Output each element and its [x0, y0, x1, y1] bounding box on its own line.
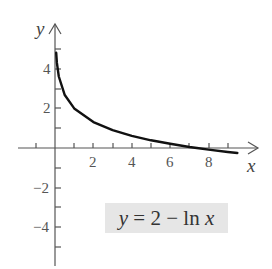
equation-rhs: = 2 − ln — [128, 206, 205, 231]
x-tick-label-8: 8 — [205, 154, 213, 170]
x-axis-label: x — [246, 155, 256, 176]
x-tick-label-6: 6 — [166, 154, 174, 170]
x-tick-label-2: 2 — [89, 154, 97, 170]
equation-var: x — [205, 206, 214, 231]
x-tick-label-4: 4 — [128, 154, 136, 170]
y-tick-label-neg2: −2 — [33, 180, 49, 196]
y-axis-label: y — [34, 18, 45, 39]
y-tick-label-2: 2 — [43, 100, 51, 116]
curve-2-minus-ln-x — [56, 53, 237, 153]
y-tick-label-neg4: −4 — [33, 219, 49, 235]
equation-lhs: y — [119, 206, 128, 231]
equation-label: y = 2 − ln x — [105, 203, 228, 233]
y-tick-label-4: 4 — [43, 61, 51, 77]
